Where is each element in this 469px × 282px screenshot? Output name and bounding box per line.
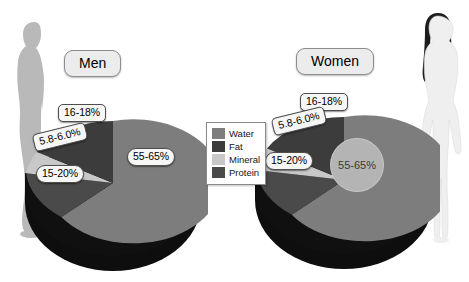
legend-swatch-fat — [212, 141, 225, 152]
infographic-canvas: Men 16-18% 5.8-6.0% 15-20% 55-65% Women … — [0, 0, 469, 282]
legend-item-mineral: Mineral — [212, 154, 260, 165]
legend: Water Fat Mineral Protein — [206, 122, 266, 185]
women-chart-title: Women — [296, 48, 374, 75]
women-protein-label: 15-20% — [265, 152, 313, 170]
men-water-label: 55-65% — [127, 148, 175, 166]
men-fat-label: 16-18% — [58, 104, 106, 122]
men-chart-title: Men — [64, 50, 121, 77]
legend-label-mineral: Mineral — [229, 154, 260, 165]
women-fat-label: 16-18% — [300, 93, 348, 111]
legend-swatch-mineral — [212, 154, 225, 165]
legend-label-fat: Fat — [229, 141, 243, 152]
legend-label-water: Water — [229, 128, 254, 139]
legend-item-water: Water — [212, 128, 260, 139]
legend-swatch-protein — [212, 167, 225, 178]
legend-swatch-water — [212, 128, 225, 139]
legend-item-protein: Protein — [212, 167, 260, 178]
legend-item-fat: Fat — [212, 141, 260, 152]
men-protein-label: 15-20% — [36, 165, 84, 183]
legend-label-protein: Protein — [229, 167, 259, 178]
women-water-label: 55-65% — [330, 138, 384, 192]
